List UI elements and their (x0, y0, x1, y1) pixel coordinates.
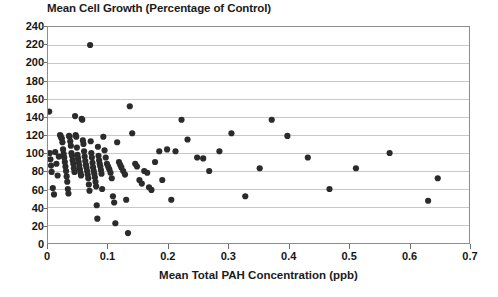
data-point (87, 42, 93, 48)
scatter-chart: Mean Cell Growth (Percentage of Control)… (0, 0, 498, 297)
data-point (103, 154, 109, 160)
y-axis-tick-label: 220 (2, 38, 44, 50)
data-point (156, 148, 162, 154)
data-point (152, 159, 158, 165)
data-point (257, 165, 263, 171)
data-point (80, 141, 86, 147)
chart-title: Mean Cell Growth (Percentage of Control) (47, 2, 271, 14)
data-point (50, 185, 56, 191)
data-point (216, 148, 222, 154)
data-point (100, 134, 106, 140)
x-axis-tick-label: 0.7 (462, 250, 477, 262)
x-axis-tick-label: 0.6 (402, 250, 417, 262)
data-point (114, 139, 120, 145)
data-point (71, 169, 77, 175)
y-axis-tick-label: 80 (2, 165, 44, 177)
x-axis-tick-mark (349, 244, 350, 249)
x-axis-tick-label: 0.2 (160, 250, 175, 262)
data-point (168, 197, 174, 203)
data-point (86, 188, 92, 194)
x-axis-title: Mean Total PAH Concentration (ppb) (47, 269, 470, 281)
y-axis-tick-label: 100 (2, 147, 44, 159)
data-point (139, 181, 145, 187)
x-axis-tick-mark (410, 244, 411, 249)
data-point (64, 173, 70, 179)
data-point (111, 199, 117, 205)
data-point (184, 136, 190, 142)
x-axis-tick-mark (289, 244, 290, 249)
data-point (99, 186, 105, 192)
data-point (101, 147, 107, 153)
x-axis-tick-mark (107, 244, 108, 249)
data-point (98, 171, 104, 177)
data-point (51, 191, 57, 197)
x-axis-tick-labels: 00.10.20.30.40.50.60.7 (47, 250, 470, 266)
x-axis-tick-mark (470, 244, 471, 249)
data-point (49, 169, 55, 175)
data-point (53, 161, 59, 167)
x-axis-tick-label: 0.3 (221, 250, 236, 262)
data-point (86, 181, 92, 187)
y-axis-tick-label: 200 (2, 56, 44, 68)
data-point (242, 193, 248, 199)
data-point (65, 190, 71, 196)
data-point (387, 150, 393, 156)
data-point (110, 193, 116, 199)
data-point (48, 163, 54, 169)
data-point (64, 179, 70, 185)
x-axis-tick-label: 0.4 (281, 250, 296, 262)
x-axis-tick-mark (47, 244, 48, 249)
plot-canvas (48, 27, 469, 243)
x-axis-tick-mark (168, 244, 169, 249)
data-point (326, 186, 332, 192)
data-point (89, 154, 95, 160)
data-point (129, 130, 135, 136)
data-point (228, 130, 234, 136)
y-axis-tick-label: 140 (2, 111, 44, 123)
data-point (79, 117, 85, 123)
data-point (194, 154, 200, 160)
data-point (172, 148, 178, 154)
data-point (353, 165, 359, 171)
x-axis-tick-mark (228, 244, 229, 249)
y-axis-tick-label: 160 (2, 93, 44, 105)
data-point (73, 134, 79, 140)
data-point (164, 146, 170, 152)
data-point (81, 148, 87, 154)
data-point (55, 172, 61, 178)
data-point (48, 156, 53, 162)
data-point (74, 145, 80, 151)
data-point (78, 172, 84, 178)
data-point (178, 117, 184, 123)
data-point (284, 133, 290, 139)
y-axis-tick-label: 60 (2, 184, 44, 196)
data-point (200, 155, 206, 161)
data-point (93, 183, 99, 189)
data-point (123, 197, 129, 203)
data-point (435, 175, 441, 181)
data-point (48, 109, 52, 115)
data-point (127, 103, 133, 109)
y-axis-tick-label: 0 (2, 238, 44, 250)
data-point (144, 170, 150, 176)
data-point (85, 175, 91, 181)
data-point (134, 163, 140, 169)
y-axis-tick-label: 120 (2, 129, 44, 141)
data-point (305, 154, 311, 160)
data-point (59, 139, 65, 145)
x-axis-tick-label: 0.5 (341, 250, 356, 262)
data-point (94, 216, 100, 222)
data-point (88, 138, 94, 144)
data-point (425, 198, 431, 204)
data-point (148, 187, 154, 193)
x-axis-tick-label: 0.1 (100, 250, 115, 262)
data-point (63, 168, 69, 174)
data-point (112, 220, 118, 226)
x-axis-tick-label: 0 (44, 250, 50, 262)
data-point (48, 150, 53, 156)
data-point (107, 170, 113, 176)
data-point (109, 175, 115, 181)
y-axis-tick-labels: 020406080100120140160180200220240 (0, 26, 44, 244)
data-point (269, 117, 275, 123)
data-point (94, 202, 100, 208)
